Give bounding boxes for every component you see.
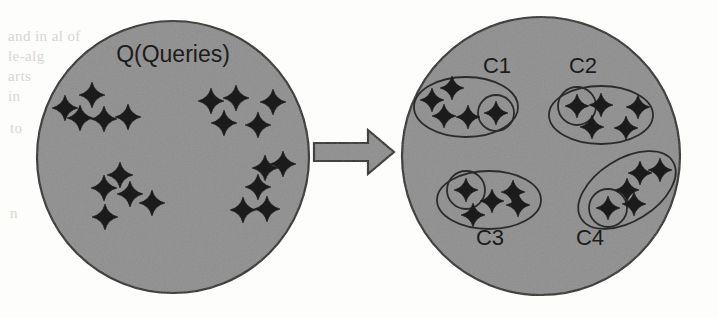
- clustering-diagram: Q(Queries) C1C2C3C4: [0, 0, 718, 318]
- cluster-label-c2: C2: [569, 53, 597, 78]
- figure-page: and in al of le-alg arts in to n use of …: [0, 0, 718, 318]
- cluster-label-c1: C1: [483, 53, 511, 78]
- cluster-label-c4: C4: [576, 225, 604, 250]
- query-set-label: Q(Queries): [116, 41, 230, 67]
- query-set-circle[interactable]: Q(Queries): [37, 21, 309, 293]
- arrow-shape: [314, 130, 394, 174]
- transform-arrow: [314, 130, 394, 174]
- cluster-label-c3: C3: [476, 225, 504, 250]
- clustered-set-boundary[interactable]: [402, 17, 680, 295]
- clustered-set-circle[interactable]: C1C2C3C4: [402, 17, 689, 295]
